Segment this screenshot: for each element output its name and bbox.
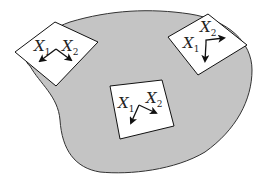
manifold-diagram: X1 X2 X2 X1 X1 X2 [0, 0, 263, 179]
